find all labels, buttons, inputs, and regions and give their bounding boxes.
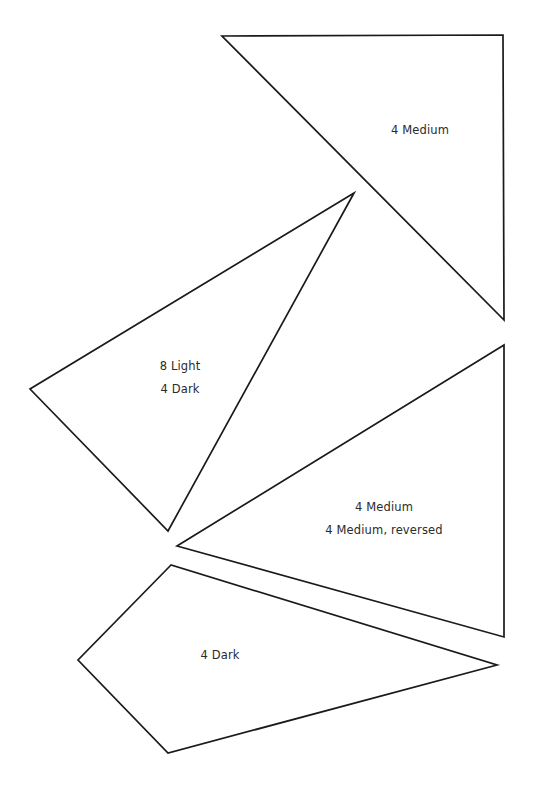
pattern-pieces-canvas <box>0 0 534 790</box>
piece-label-bottom-kite: 4 Dark <box>200 644 239 667</box>
piece-label-middle-right-triangle: 4 Medium 4 Medium, reversed <box>325 496 443 542</box>
piece-label-left-triangle: 8 Light 4 Dark <box>160 355 201 401</box>
piece-label-line: 4 Dark <box>200 644 239 667</box>
piece-label-line: 8 Light <box>160 355 201 378</box>
pattern-sheet: 4 Medium 8 Light 4 Dark 4 Medium 4 Mediu… <box>0 0 534 790</box>
piece-label-top-right-triangle: 4 Medium <box>391 119 449 142</box>
piece-label-line: 4 Medium <box>391 119 449 142</box>
piece-label-line: 4 Medium, reversed <box>325 519 443 542</box>
piece-label-line: 4 Medium <box>325 496 443 519</box>
piece-label-line: 4 Dark <box>160 378 201 401</box>
